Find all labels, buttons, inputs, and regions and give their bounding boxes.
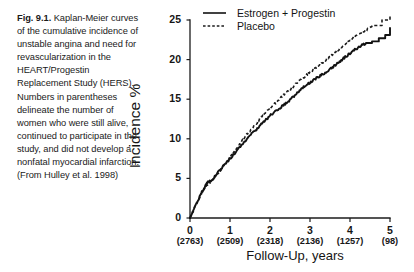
legend-label-estrogen-progestin: Estrogen + Progestin <box>237 7 335 19</box>
x-tick-label: 4 <box>337 224 363 236</box>
y-tick-label: 0 <box>159 211 181 223</box>
legend-label-placebo: Placebo <box>237 20 275 32</box>
x-tick-label: 5 <box>377 224 403 236</box>
kaplan-meier-figure: Estrogen + Progestin Placebo Incidence %… <box>0 0 414 272</box>
y-tick-label: 15 <box>159 92 181 104</box>
x-tick-label: 1 <box>217 224 243 236</box>
y-tick-label: 5 <box>159 171 181 183</box>
y-tick-label: 10 <box>159 132 181 144</box>
y-tick-label: 20 <box>159 53 181 65</box>
x-tick-label: 3 <box>297 224 323 236</box>
x-tick-label: 0 <box>177 224 203 236</box>
x-tick-label: 2 <box>257 224 283 236</box>
y-tick-label: 25 <box>159 13 181 25</box>
curve-estrogen-progestin <box>190 28 390 218</box>
y-axis-title: Incidence % <box>126 66 144 186</box>
x-axis-title: Follow-Up, years <box>200 248 390 263</box>
at-risk-count: (98) <box>367 236 413 246</box>
